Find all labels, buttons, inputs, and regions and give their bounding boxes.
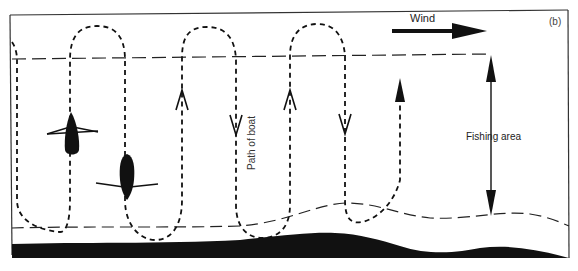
fishing-area-label: Fishing area <box>466 131 521 142</box>
panel-label: (b) <box>549 16 561 27</box>
boat-2-icon <box>96 154 158 200</box>
path-end-arrow-icon <box>395 78 405 102</box>
seabed <box>12 233 569 258</box>
path-of-boat-label: Path of boat <box>246 116 257 170</box>
wind-label: Wind <box>410 12 435 24</box>
lower-boundary-line <box>12 203 569 228</box>
path-arrows <box>176 90 351 135</box>
diagram: Wind (b) Fishing area Path of boat <box>0 0 578 271</box>
upper-boundary-line <box>12 54 491 59</box>
boat-1-icon <box>47 112 98 155</box>
wind-arrow-icon <box>392 23 487 39</box>
